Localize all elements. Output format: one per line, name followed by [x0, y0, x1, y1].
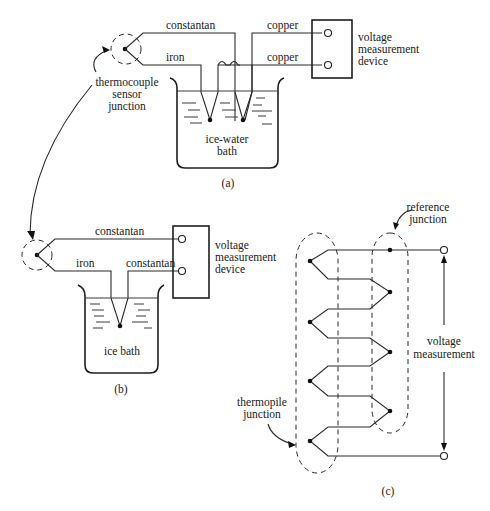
label-sensor-3: junction	[107, 100, 146, 113]
label-thermopile-2: junction	[242, 408, 281, 421]
junction2-left	[235, 92, 243, 120]
reference-enclosure	[372, 233, 408, 433]
link-arrow	[30, 85, 92, 235]
label-bath-a-1: ice-water	[206, 133, 249, 145]
label-reference-2: junction	[408, 213, 447, 226]
label-constantan-a: constantan	[166, 19, 215, 31]
label-device-b-2: measurement	[215, 251, 277, 263]
label-sensor-2: sensor	[112, 88, 142, 100]
water-ripples-a	[182, 98, 272, 124]
terminal-top-a	[325, 30, 332, 37]
thermopile-top-wire	[310, 250, 442, 261]
arrowhead-up	[441, 255, 447, 263]
label-copper-top: copper	[267, 19, 298, 32]
sensor-arrow-a	[94, 50, 108, 72]
arrowhead-reference	[393, 222, 399, 230]
label-constantan-b: constantan	[95, 225, 144, 237]
copper-top-wire	[243, 33, 322, 120]
panel-b: constantan iron constantan voltage measu…	[22, 225, 277, 396]
thermopile-enclosure	[296, 233, 338, 473]
caption-b: (b)	[114, 383, 128, 396]
caption-c: (c)	[382, 485, 395, 498]
label-constantan-b2: constantan	[126, 257, 175, 269]
terminal-top-b	[179, 236, 186, 243]
label-device-b-3: device	[215, 263, 245, 275]
label-bath-b: ice bath	[104, 345, 140, 357]
caption-a: (a)	[222, 177, 235, 190]
label-device-a-2: measurement	[358, 43, 420, 55]
label-copper-bottom: copper	[267, 51, 298, 64]
reference-junction-dot-b	[118, 324, 123, 329]
voltage-device-a	[312, 20, 352, 78]
label-device-a-3: device	[358, 55, 388, 67]
label-iron-b: iron	[76, 257, 95, 269]
panel-a: constantan iron copper copper voltage me…	[94, 19, 420, 190]
output-terminal-top	[441, 247, 448, 254]
label-voltage-c-1: voltage	[427, 335, 461, 348]
thermocouple-diagram: constantan iron copper copper voltage me…	[0, 0, 490, 511]
constantan-wire-b	[37, 239, 180, 255]
terminal-bottom-a	[325, 62, 332, 69]
arrowhead-thermopile	[288, 441, 296, 448]
terminal-bottom-b	[179, 268, 186, 275]
thermopile-junction-dots	[308, 259, 313, 444]
voltage-device-b	[173, 226, 209, 298]
reference-dot-top	[388, 248, 393, 253]
label-bath-a-2: bath	[217, 145, 237, 157]
panel-c: voltage measurement reference junction t…	[237, 201, 475, 498]
arrowhead-down	[441, 443, 447, 451]
reference-junction-dot-1	[208, 118, 213, 123]
label-reference-1: reference	[407, 201, 450, 213]
label-voltage-c-2: measurement	[413, 348, 475, 360]
output-terminal-bottom	[441, 453, 448, 460]
reference-junction-dots	[388, 290, 393, 414]
reference-junction-dot-2	[241, 118, 246, 123]
thermopile-arrow	[268, 424, 292, 444]
arrowhead-link	[27, 231, 35, 240]
label-iron-a: iron	[166, 51, 185, 63]
